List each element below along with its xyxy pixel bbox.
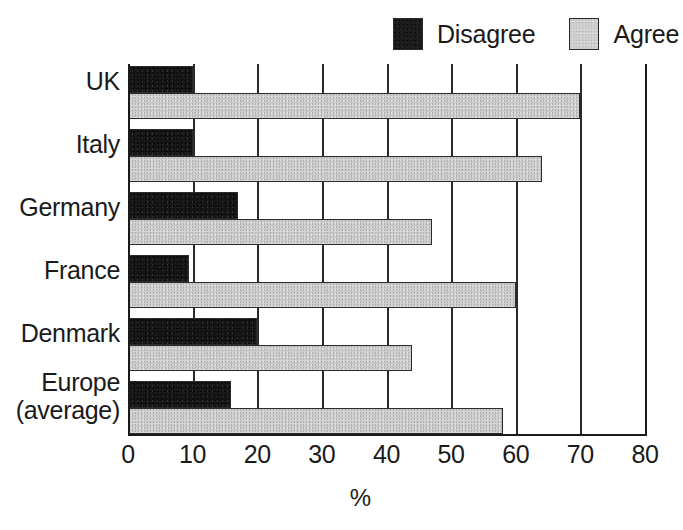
bar-agree (128, 345, 412, 371)
plot-area (128, 64, 645, 436)
y-label-uk: UK (0, 67, 120, 95)
bar-agree (128, 282, 516, 308)
bar-disagree (128, 381, 231, 408)
y-label-line: France (0, 256, 120, 284)
y-label-line: Denmark (0, 319, 120, 347)
bar-agree (128, 219, 432, 245)
bar-agree (128, 93, 580, 119)
bar-agree (128, 408, 503, 434)
bar-agree (128, 156, 542, 182)
plot-right-border (645, 64, 647, 436)
legend-entry-agree: Agree (569, 18, 679, 50)
x-tick-label-60: 60 (486, 440, 546, 469)
legend-label-agree: Agree (613, 20, 679, 49)
y-label-denmark: Denmark (0, 319, 120, 347)
legend-entry-disagree: Disagree (393, 18, 535, 50)
y-label-line: Italy (0, 130, 120, 158)
x-tick-label-50: 50 (421, 440, 481, 469)
y-label-line: UK (0, 67, 120, 95)
y-label-line: (average) (0, 396, 120, 424)
y-label-line: Germany (0, 193, 120, 221)
bars-layer (128, 64, 645, 436)
x-axis-title-text: % (350, 484, 371, 511)
y-label-europe-average: Europe(average) (0, 368, 120, 424)
bar-disagree (128, 255, 189, 282)
x-tick-label-30: 30 (292, 440, 352, 469)
x-tick-label-0: 0 (98, 440, 158, 469)
x-axis-tick-labels: 01020304050607080 (0, 440, 683, 474)
x-tick-label-70: 70 (550, 440, 610, 469)
bar-disagree (128, 129, 193, 156)
bar-chart: Disagree Agree UKItalyGermanyFranceDenma… (0, 0, 683, 530)
x-tick-label-20: 20 (227, 440, 287, 469)
y-axis-line (128, 64, 130, 436)
y-label-italy: Italy (0, 130, 120, 158)
chart-legend: Disagree Agree (393, 14, 679, 54)
x-axis-title: % (0, 484, 683, 512)
bar-disagree (128, 66, 193, 93)
x-axis-line (128, 434, 647, 436)
legend-label-disagree: Disagree (437, 20, 535, 49)
bar-disagree (128, 192, 238, 219)
x-tick-label-80: 80 (615, 440, 675, 469)
bar-disagree (128, 318, 257, 345)
x-tick-label-10: 10 (163, 440, 223, 469)
x-tick-label-40: 40 (357, 440, 417, 469)
y-axis-category-labels: UKItalyGermanyFranceDenmarkEurope(averag… (0, 64, 120, 436)
legend-swatch-disagree (393, 18, 423, 50)
y-label-line: Europe (0, 368, 120, 396)
y-label-germany: Germany (0, 193, 120, 221)
legend-swatch-agree (569, 18, 599, 50)
y-label-france: France (0, 256, 120, 284)
